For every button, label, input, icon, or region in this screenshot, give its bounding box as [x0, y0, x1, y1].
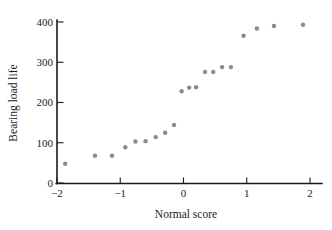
y-axis-ticks: [57, 22, 64, 183]
data-point: [93, 153, 97, 157]
data-point: [241, 33, 245, 37]
scatter-plot-figure: 0100200300400 −2−1012 Normal score Beari…: [0, 0, 332, 230]
x-tick-label--2: −2: [51, 187, 63, 199]
data-point: [172, 123, 176, 127]
data-point: [203, 70, 207, 74]
data-point: [179, 89, 183, 93]
data-point: [255, 26, 259, 30]
data-point: [272, 24, 276, 28]
y-tick-label-200: 200: [37, 96, 54, 108]
y-axis-tick-labels: 0100200300400: [37, 16, 54, 189]
plot-canvas: 0100200300400 −2−1012 Normal score Beari…: [0, 0, 332, 230]
x-tick-label-2: 2: [307, 187, 313, 199]
data-point: [123, 145, 127, 149]
data-point: [211, 70, 215, 74]
data-point: [143, 139, 147, 143]
data-point: [301, 23, 305, 27]
x-axis-title: Normal score: [155, 208, 217, 220]
data-point: [163, 130, 167, 134]
y-tick-label-300: 300: [37, 56, 54, 68]
y-axis-title: Bearing load life: [7, 64, 20, 141]
x-axis-tick-labels: −2−1012: [51, 187, 313, 199]
data-point: [187, 85, 191, 89]
data-point: [220, 65, 224, 69]
data-point: [110, 153, 114, 157]
axes-group: [56, 20, 322, 184]
data-point: [229, 65, 233, 69]
x-tick-label-0: 0: [181, 187, 187, 199]
data-points-group: [63, 23, 305, 166]
x-tick-label-1: 1: [244, 187, 250, 199]
data-point: [153, 135, 157, 139]
data-point: [63, 161, 67, 165]
data-point: [133, 139, 137, 143]
x-tick-label--1: −1: [114, 187, 126, 199]
y-tick-label-100: 100: [37, 137, 54, 149]
y-tick-label-400: 400: [37, 16, 54, 28]
data-point: [194, 85, 198, 89]
x-axis-ticks: [57, 178, 310, 184]
